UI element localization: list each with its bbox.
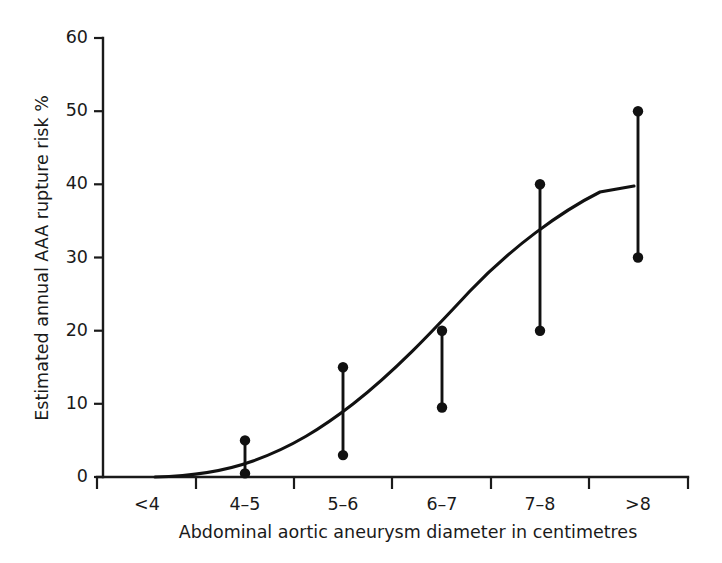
x-tick-label-5-6: 5–6 (327, 494, 358, 514)
error-bar-6-7 (437, 326, 447, 413)
y-tick-label-30: 30 (66, 247, 88, 267)
y-axis-ticks (94, 38, 103, 477)
y-tick-label-10: 10 (66, 393, 88, 413)
error-bar-5-6 (338, 362, 348, 460)
error-bar-lower-marker (535, 326, 545, 336)
x-axis-tick-labels: <4 4–5 5–6 6–7 7–8 >8 (134, 494, 651, 514)
x-tick-label-7-8: 7–8 (524, 494, 555, 514)
x-tick-label-lt4: <4 (134, 494, 160, 514)
error-bar-lower-marker (633, 252, 643, 262)
error-bar-7-8 (535, 179, 545, 336)
error-bar-upper-marker (633, 106, 643, 116)
x-axis-title: Abdominal aortic aneurysm diameter in ce… (179, 522, 638, 542)
risk-curve (155, 186, 634, 477)
y-tick-label-50: 50 (66, 100, 88, 120)
rupture-risk-chart: 60 50 40 30 20 10 0 <4 4–5 5–6 6–7 7–8 >… (0, 0, 722, 563)
error-bar-lower-marker (240, 468, 250, 478)
error-bar-lower-marker (338, 450, 348, 460)
error-bar-gt8 (633, 106, 643, 263)
chart-svg: 60 50 40 30 20 10 0 <4 4–5 5–6 6–7 7–8 >… (0, 0, 722, 563)
x-tick-label-6-7: 6–7 (426, 494, 457, 514)
error-bar-upper-marker (535, 179, 545, 189)
error-bar-4-5 (240, 435, 250, 478)
x-tick-label-gt8: >8 (625, 494, 651, 514)
x-tick-label-4-5: 4–5 (229, 494, 260, 514)
x-axis-ticks (97, 477, 688, 489)
y-tick-label-60: 60 (66, 27, 88, 47)
error-bar-upper-marker (240, 435, 250, 445)
y-tick-label-20: 20 (66, 320, 88, 340)
y-tick-label-0: 0 (77, 466, 88, 486)
y-axis-tick-labels: 60 50 40 30 20 10 0 (66, 27, 88, 486)
error-bar-upper-marker (338, 362, 348, 372)
error-bar-upper-marker (437, 326, 447, 336)
error-bar-lower-marker (437, 402, 447, 412)
y-tick-label-40: 40 (66, 173, 88, 193)
y-axis-title: Estimated annual AAA rupture risk % (32, 95, 52, 421)
